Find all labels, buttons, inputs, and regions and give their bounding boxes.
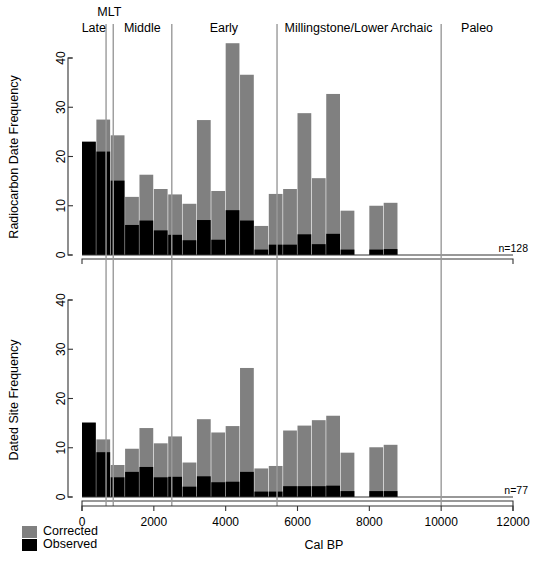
bar-observed [211,482,225,497]
period-labels: LateMLTMiddleEarlyMillingstone/Lower Arc… [82,5,493,35]
bar-group [326,416,340,497]
bar-observed [139,467,153,497]
bar-observed [82,142,96,255]
bar-observed [269,245,283,255]
bar-observed [312,486,326,497]
bars-group-bottom [82,368,397,497]
bar-corrected [341,453,355,497]
bar-group [240,75,254,255]
bar-group [384,445,398,497]
bar-observed [240,221,254,255]
bar-corrected [384,203,398,255]
bar-corrected [369,447,383,497]
period-label-mlt: MLT [97,5,121,19]
bar-group [183,463,197,497]
panel-dated-site-frequency: 010203040 Dated Site Frequency n=77 [7,293,528,506]
period-label-middle: Middle [124,21,161,35]
y-tick-label: 0 [54,251,68,258]
period-label-paleo: Paleo [461,21,493,35]
panel-x-spine [82,501,513,506]
bar-group [154,443,168,497]
bar-observed [125,472,139,497]
bar-observed [384,491,398,497]
bar-group [125,449,139,497]
bar-observed [341,491,355,497]
bar-group [226,426,240,497]
bar-observed [341,250,355,255]
bar-observed [298,486,312,497]
x-axis: 020004000600080001000012000 [79,506,530,529]
chart-svg: 010203040 Radiocarbon Date Frequency n=1… [0,0,540,571]
bar-observed [384,249,398,255]
bar-corrected [369,206,383,255]
bar-group [326,94,340,255]
y-axis-title-top: Radiocarbon Date Frequency [7,75,21,239]
bars-group-top [82,43,397,255]
bar-group [369,447,383,497]
y-tick-label: 20 [54,392,68,406]
bar-observed [254,250,268,255]
bar-group [384,203,398,255]
x-axis-title: Cal BP [305,538,344,552]
x-tick-label: 2000 [140,515,167,529]
bar-group [154,189,168,255]
bar-group [183,204,197,255]
sample-size-label-top: n=128 [499,242,529,254]
bar-group [269,466,283,497]
bar-group [283,431,297,497]
bar-group [168,194,182,255]
bar-observed [154,230,168,255]
legend-swatch-corrected [22,526,37,538]
bar-group [96,120,110,255]
bar-group [312,178,326,255]
bar-observed [125,225,139,255]
legend: CorrectedObserved [22,524,98,551]
period-label-late: Late [82,21,106,35]
period-label-early: Early [210,21,239,35]
bar-observed [168,235,182,255]
bar-observed [96,152,110,255]
x-tick-label: 6000 [284,515,311,529]
bar-group [341,211,355,255]
bar-group [197,120,211,255]
bar-group [96,439,110,497]
bar-group [197,419,211,497]
bar-observed [183,240,197,255]
bar-group [283,189,297,255]
bar-corrected [341,211,355,255]
y-tick-label: 30 [54,100,68,114]
bar-observed [240,472,254,497]
bar-corrected [312,420,326,497]
bar-corrected [312,178,326,255]
bar-observed [312,244,326,255]
bar-group [240,368,254,497]
bar-group [312,420,326,497]
bar-group [341,453,355,497]
sample-size-label-bottom: n=77 [504,484,528,496]
bar-group [254,468,268,497]
bar-group [82,142,96,255]
bar-group [369,206,383,255]
bar-group [226,43,240,255]
bar-group [139,175,153,255]
x-tick-label: 4000 [212,515,239,529]
bar-observed [326,486,340,497]
bar-group [211,432,225,497]
y-tick-label: 0 [54,493,68,500]
bar-group [269,194,283,255]
bar-group [82,423,96,497]
bar-observed [82,423,96,497]
bar-group [125,197,139,255]
bar-observed [298,234,312,255]
x-tick-label: 12000 [496,515,530,529]
legend-swatch-observed [22,539,37,551]
bar-group [139,428,153,497]
bar-observed [254,492,268,497]
bar-corrected [326,416,340,497]
y-tick-label: 10 [54,199,68,213]
y-tick-label: 10 [54,441,68,455]
bar-observed [183,487,197,497]
bar-observed [168,477,182,497]
bar-observed [197,476,211,497]
legend-label-corrected: Corrected [43,524,98,538]
